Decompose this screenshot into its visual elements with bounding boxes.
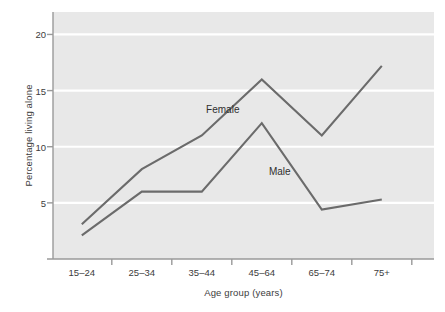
y-tick-label-10: 10	[24, 141, 46, 152]
plot-area	[0, 0, 445, 312]
x-axis-title: Age group (years)	[53, 287, 434, 298]
y-axis-tick-labels: 5101520	[22, 0, 46, 312]
y-tick-label-5: 5	[24, 197, 46, 208]
plot-background	[53, 12, 434, 259]
chart-container: Percentage living alone 5101520 15–2425–…	[0, 0, 445, 312]
y-tick-label-15: 15	[24, 85, 46, 96]
series-label-male: Male	[269, 166, 291, 177]
series-label-female: Female	[206, 103, 239, 114]
x-tick-label-5: 75+	[347, 267, 417, 278]
y-tick-label-20: 20	[24, 29, 46, 40]
